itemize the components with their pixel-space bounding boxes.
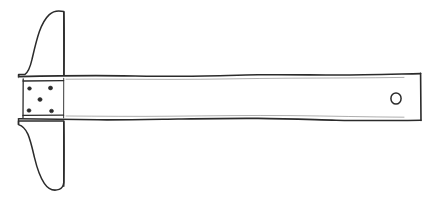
rivet-icon [50,109,54,113]
rivet-icon [27,109,31,113]
head-lower-lobe-outline [19,121,64,190]
rivet-icon [38,98,42,102]
head-upper-lobe-outline [19,11,64,77]
rivet-icon [28,87,32,90]
blade-body [19,74,421,121]
rivet-icon [48,86,52,90]
figure-canvas: T-square Vintage line-engraving of a car… [0,0,438,199]
t-square-drawing [0,0,438,199]
hanging-hole-icon [391,93,401,104]
